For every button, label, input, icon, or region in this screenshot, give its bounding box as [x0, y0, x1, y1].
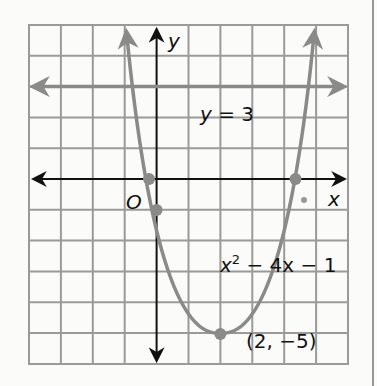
vertex-point [214, 328, 226, 340]
y-axis-label: y [167, 29, 181, 53]
graph: y x O y = 3 x2 − 4x − 1 (2, −5) [0, 0, 377, 386]
x-intercept-left-point [143, 173, 155, 185]
y-intercept-point [151, 204, 163, 216]
vertex-label: (2, −5) [246, 329, 317, 353]
x-axis-label: x [327, 187, 340, 211]
parabola-label-exp: 2 [232, 252, 240, 267]
line-label-rest: = 3 [212, 102, 254, 126]
stray-dot [301, 197, 307, 203]
line-label: y = 3 [199, 102, 254, 126]
x-intercept-right-point [290, 173, 302, 185]
origin-label: O [126, 190, 142, 214]
parabola-label: x2 − 4x − 1 [219, 252, 336, 277]
parabola-label-x: x [219, 253, 232, 277]
parabola-label-rest: − 4x − 1 [240, 253, 336, 277]
